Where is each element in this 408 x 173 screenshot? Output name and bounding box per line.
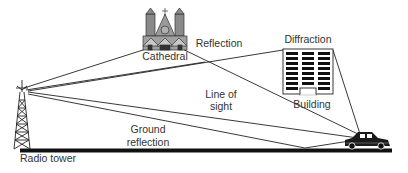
- diffraction-bend-path: [333, 50, 360, 134]
- cathedral-icon: [143, 8, 187, 50]
- cathedral-label: Cathedral: [139, 51, 191, 62]
- reflection-path-2: [26, 62, 205, 90]
- car-icon: [345, 132, 390, 149]
- radio-tower-label: Radio tower: [20, 153, 76, 164]
- diffraction-label: Diffraction: [282, 34, 334, 45]
- propagation-diagram: Cathedral Reflection Diffraction Buildin…: [0, 0, 408, 173]
- diagram-canvas: [0, 0, 408, 173]
- reflection-label: Reflection: [189, 38, 249, 49]
- building-icon: [283, 49, 333, 95]
- radio-tower-icon: [14, 80, 30, 149]
- line-of-sight-label-line2: sight: [196, 101, 246, 112]
- line-of-sight-label-line1: Line of: [196, 89, 246, 100]
- ground-reflection-label-line2: reflection: [118, 137, 178, 148]
- building-label: Building: [290, 99, 334, 110]
- ground-reflection-label-line1: Ground: [118, 124, 178, 135]
